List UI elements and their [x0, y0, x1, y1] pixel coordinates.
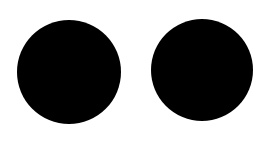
- right-circle: [151, 19, 253, 121]
- left-circle: [17, 20, 121, 124]
